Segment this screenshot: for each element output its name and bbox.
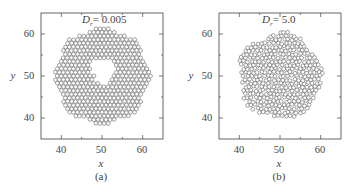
particle-marker <box>68 89 72 93</box>
particle-marker <box>90 42 94 46</box>
particle-marker <box>119 34 123 38</box>
particle-marker <box>96 118 100 122</box>
panel-a: Dr= 0.005 60 50 40 y 40 50 60 x (a) <box>0 0 178 192</box>
particle-marker <box>297 48 301 52</box>
particle-marker <box>127 99 131 103</box>
particle-marker <box>90 78 94 82</box>
particle-marker <box>128 60 132 64</box>
particle-marker <box>297 99 301 103</box>
particle-marker <box>102 107 106 111</box>
particle-marker <box>72 60 76 64</box>
y-axis-label-b: y <box>186 70 196 81</box>
particle-marker <box>246 67 250 71</box>
particle-marker <box>124 67 128 71</box>
particle-marker <box>69 78 73 82</box>
particle-marker <box>301 85 305 89</box>
particle-marker <box>137 45 141 49</box>
particle-marker <box>260 93 264 97</box>
particle-marker <box>74 92 78 96</box>
particle-marker <box>318 81 322 85</box>
particle-marker <box>314 88 318 92</box>
particle-marker <box>262 53 266 57</box>
annotation-symbol: D <box>82 13 90 25</box>
particle-marker <box>96 30 100 34</box>
particle-marker <box>290 82 294 86</box>
particle-marker <box>64 67 68 71</box>
particle-marker <box>249 82 253 86</box>
particle-marker <box>296 42 300 46</box>
particle-marker <box>299 37 303 41</box>
particle-marker <box>114 34 118 38</box>
particle-marker <box>102 49 106 53</box>
particle-marker <box>98 85 102 89</box>
particle-marker <box>102 100 106 104</box>
particle-marker <box>86 56 90 60</box>
panel-label-b: (b) <box>266 171 292 182</box>
ytick-label-40: 40 <box>200 113 214 124</box>
particle-marker <box>272 85 276 89</box>
particle-marker <box>100 96 104 100</box>
particle-marker <box>271 56 275 60</box>
particle-marker <box>268 107 272 111</box>
particle-marker <box>94 92 98 96</box>
xtick-label-60: 60 <box>312 145 328 156</box>
particle-marker <box>280 42 284 46</box>
particle-marker <box>288 56 292 60</box>
particle-marker <box>274 46 278 50</box>
xtick-label-40: 40 <box>231 145 247 156</box>
particle-marker <box>127 41 131 45</box>
particle-marker <box>242 68 246 72</box>
particle-marker <box>127 56 131 60</box>
particle-marker <box>274 38 278 42</box>
particle-marker <box>106 92 110 96</box>
particle-marker <box>258 74 262 78</box>
particle-marker <box>123 49 127 53</box>
particle-marker <box>68 67 72 71</box>
particle-marker <box>120 52 124 56</box>
particle-marker <box>88 38 92 42</box>
particle-marker <box>292 107 296 111</box>
particle-marker <box>108 30 112 34</box>
particle-marker <box>131 85 135 89</box>
particle-marker <box>76 89 80 93</box>
particle-marker <box>100 89 104 93</box>
particle-marker <box>74 78 78 82</box>
particle-marker <box>316 63 320 67</box>
particle-marker <box>147 70 151 74</box>
particle-marker <box>281 31 285 35</box>
particle-marker <box>106 100 110 104</box>
particle-marker <box>102 41 106 45</box>
particle-marker <box>72 67 76 71</box>
particle-marker <box>96 89 100 93</box>
particle-marker <box>76 74 80 78</box>
ytick-label-50: 50 <box>22 71 36 82</box>
particle-marker <box>67 81 71 85</box>
particle-marker <box>133 103 137 107</box>
particle-marker <box>308 100 312 104</box>
particle-marker <box>70 49 74 53</box>
particle-marker <box>125 38 129 42</box>
particle-marker <box>104 52 108 56</box>
particle-marker <box>61 56 65 60</box>
particle-marker <box>294 53 298 57</box>
particle-marker <box>55 67 59 71</box>
particle-marker <box>104 45 108 49</box>
particle-marker <box>68 74 72 78</box>
ytick-label-50: 50 <box>200 71 214 82</box>
particle-marker <box>98 114 102 118</box>
particle-marker <box>245 53 249 57</box>
particle-marker <box>137 74 141 78</box>
particle-marker <box>265 93 269 97</box>
particle-marker <box>141 60 145 64</box>
particle-marker <box>315 74 319 78</box>
particle-marker <box>272 114 276 118</box>
particle-marker <box>135 42 139 46</box>
particle-marker <box>84 45 88 49</box>
particle-marker <box>267 59 271 63</box>
particle-marker <box>121 103 125 107</box>
particle-marker <box>127 92 131 96</box>
particle-marker <box>126 78 130 82</box>
particle-marker <box>287 60 291 64</box>
particle-marker <box>251 107 255 111</box>
particle-marker <box>92 81 96 85</box>
